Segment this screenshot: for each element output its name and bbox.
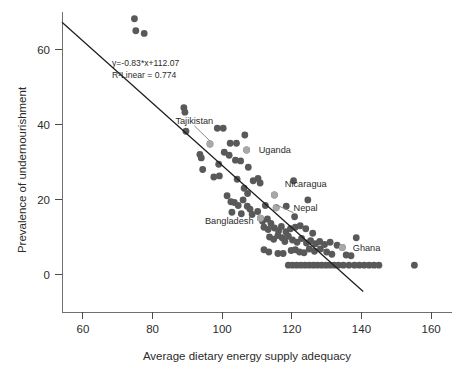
- data-point: [132, 27, 139, 34]
- data-point: [375, 262, 382, 269]
- x-tick-label-140: 140: [352, 323, 371, 335]
- point-label-bangladesh: Bangladesh: [205, 216, 254, 226]
- data-point: [131, 15, 138, 22]
- data-point: [199, 166, 206, 173]
- x-tick-label-80: 80: [146, 323, 159, 335]
- data-point: [233, 140, 240, 147]
- data-point: [226, 152, 233, 159]
- r-squared-text: R²Linear = 0.774: [112, 70, 176, 80]
- data-point: [328, 251, 335, 258]
- data-point: [216, 172, 223, 179]
- data-point: [280, 250, 287, 257]
- highlighted-point-ghana: [339, 244, 346, 251]
- y-axis-ticks: 0204060: [37, 44, 62, 281]
- data-point: [224, 192, 231, 199]
- y-tick-label-60: 60: [37, 44, 50, 56]
- data-point: [254, 208, 261, 215]
- data-point: [311, 248, 318, 255]
- regression-line: [62, 22, 363, 291]
- data-point: [302, 225, 309, 232]
- axes-group: [62, 12, 452, 312]
- point-label-uganda: Uganda: [259, 145, 292, 155]
- data-point: [241, 132, 248, 139]
- data-point: [245, 164, 252, 171]
- data-point: [227, 140, 234, 147]
- x-tick-label-100: 100: [213, 323, 232, 335]
- data-point: [214, 125, 221, 132]
- highlighted-point-bangladesh: [257, 215, 264, 222]
- chart-canvas: 0204060 6080100120140160 TajikistanUgand…: [0, 0, 465, 382]
- point-label-ghana: Ghana: [353, 243, 381, 253]
- regression-equation-text: y=-0.83*x+112.07: [112, 58, 179, 68]
- x-tick-label-60: 60: [76, 323, 89, 335]
- highlighted-point-tajikistan: [207, 141, 214, 148]
- y-axis-title: Prevalence of undernourishment: [16, 86, 28, 253]
- x-axis-title: Average dietary energy supply adequacy: [143, 350, 351, 362]
- highlighted-point-nicaragua: [271, 192, 278, 199]
- regression-line-layer: [62, 22, 363, 291]
- point-label-nepal: Nepal: [294, 203, 318, 213]
- data-point: [229, 209, 236, 216]
- data-points-layer: [131, 15, 418, 268]
- data-point: [237, 157, 244, 164]
- data-point: [235, 202, 242, 209]
- data-point: [309, 230, 316, 237]
- x-tick-label-120: 120: [282, 323, 301, 335]
- data-point: [198, 154, 205, 161]
- y-tick-label-40: 40: [37, 119, 50, 131]
- data-point: [353, 234, 360, 241]
- y-tick-label-0: 0: [44, 269, 50, 281]
- highlighted-point-uganda: [243, 147, 250, 154]
- data-point: [141, 30, 148, 37]
- data-point: [182, 109, 189, 116]
- data-point: [291, 213, 298, 220]
- data-point: [327, 239, 334, 246]
- data-point: [265, 226, 272, 233]
- data-point: [257, 180, 264, 187]
- data-point: [220, 125, 227, 132]
- leader-line-tajikistan: [194, 126, 210, 141]
- data-point: [411, 262, 418, 269]
- point-label-nicaragua: Nicaragua: [285, 179, 328, 189]
- point-label-tajikistan: Tajikistan: [175, 116, 213, 126]
- y-tick-label-20: 20: [37, 194, 50, 206]
- data-point: [278, 223, 285, 230]
- x-axis-ticks: 6080100120140160: [76, 312, 440, 335]
- scatter-chart: 0204060 6080100120140160 TajikistanUgand…: [0, 0, 465, 382]
- data-point: [240, 196, 247, 203]
- data-point: [348, 252, 355, 259]
- x-tick-label-160: 160: [422, 323, 441, 335]
- data-point: [265, 249, 272, 256]
